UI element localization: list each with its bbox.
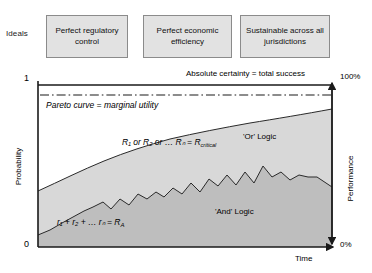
y-axis-left-tick-bottom: 0 bbox=[24, 240, 29, 249]
ideal-box-regulatory-control: Perfect regulatory control bbox=[46, 15, 128, 58]
y-axis-left-label: Probability bbox=[14, 137, 23, 197]
or-logic-label: 'Or' Logic bbox=[243, 132, 276, 141]
chart-area: Absolute certainty = total success Paret… bbox=[0, 62, 372, 273]
and-logic-label: 'And' Logic bbox=[215, 207, 254, 216]
ideal-box-text: Perfect economic efficiency bbox=[147, 26, 228, 47]
ideal-box-sustainable-jurisdictions: Sustainable across all jurisdictions bbox=[240, 15, 330, 58]
and-logic-formula-main: r₁ + r₂ + … rₙ = R bbox=[57, 217, 120, 227]
chart-svg bbox=[0, 62, 372, 273]
y-axis-right-tick-bottom: 0% bbox=[340, 240, 352, 249]
ideals-row: Ideals Perfect regulatory control Perfec… bbox=[0, 0, 372, 64]
x-axis-label: Time bbox=[295, 254, 312, 263]
y-axis-left-tick-top: 1 bbox=[24, 74, 29, 83]
ideal-box-economic-efficiency: Perfect economic efficiency bbox=[143, 15, 232, 58]
and-logic-formula-subscript: A bbox=[120, 222, 124, 228]
ideals-label: Ideals bbox=[6, 29, 44, 38]
absolute-certainty-label: Absolute certainty = total success bbox=[186, 69, 305, 78]
ideal-box-text: Sustainable across all jurisdictions bbox=[244, 26, 326, 47]
y-axis-right-label: Performance bbox=[346, 144, 355, 214]
figure-root: Ideals Perfect regulatory control Perfec… bbox=[0, 0, 372, 273]
or-logic-formula-main: R₁ or R₂ or … Rₙ = R bbox=[122, 137, 201, 147]
or-logic-formula-subscript: critical bbox=[201, 142, 217, 148]
y-axis-right-tick-top: 100% bbox=[340, 72, 360, 81]
pareto-curve-label: Pareto curve = marginal utility bbox=[46, 101, 158, 110]
or-logic-formula: R₁ or R₂ or … Rₙ = Rcritical bbox=[122, 138, 216, 148]
ideal-box-text: Perfect regulatory control bbox=[50, 26, 124, 47]
and-logic-formula: r₁ + r₂ + … rₙ = RA bbox=[57, 218, 125, 228]
